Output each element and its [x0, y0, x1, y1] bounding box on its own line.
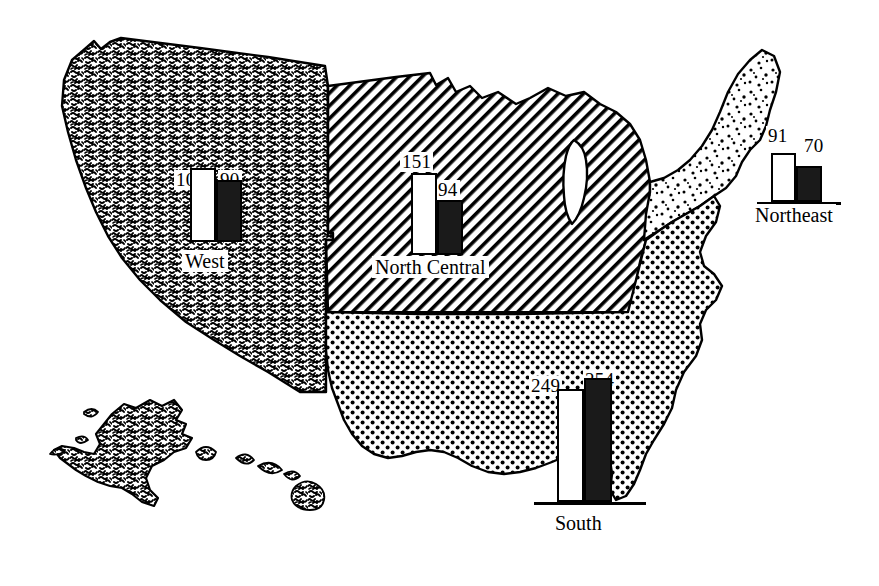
- bar-west-light: [190, 168, 216, 242]
- bars-northeast: [771, 153, 822, 202]
- bar-south-dark: [584, 378, 612, 502]
- bar-northeast-dark: [796, 166, 822, 202]
- map-chart-canvas: 107 90 West 151 94 North Central 91 70 N…: [0, 0, 879, 586]
- us-region-map: [0, 0, 879, 586]
- bar-north-central-dark: [437, 200, 463, 255]
- bars-north-central: [411, 173, 463, 255]
- value-label-north-central-light: 151: [400, 152, 433, 172]
- bar-group-north-central: 151 94 North Central: [372, 148, 552, 283]
- value-label-northeast-light: 91: [766, 126, 790, 146]
- bar-north-central-light: [411, 173, 437, 255]
- inset-alaska[interactable]: [50, 400, 192, 506]
- bars-west: [190, 168, 242, 242]
- region-caption-west: West: [182, 250, 228, 272]
- region-caption-south: South: [552, 512, 605, 534]
- region-caption-north-central: North Central: [372, 256, 489, 278]
- bar-group-south: 249 254 South: [526, 366, 676, 546]
- baseline-rule-south: [534, 502, 646, 505]
- inset-hawaii[interactable]: [196, 447, 324, 510]
- bar-group-west: 107 90 West: [172, 160, 282, 280]
- bar-south-light: [557, 389, 584, 502]
- region-caption-northeast: Northeast: [752, 204, 836, 226]
- bar-group-northeast: 91 70 Northeast: [752, 120, 877, 230]
- bars-south: [557, 378, 612, 502]
- bar-northeast-light: [771, 153, 796, 202]
- bar-west-dark: [216, 180, 242, 242]
